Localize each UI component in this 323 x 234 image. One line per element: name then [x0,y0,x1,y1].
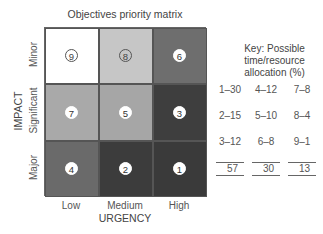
y-axis-label: IMPACT [12,81,24,141]
row-label-major: Major [28,138,39,198]
key-heading-line: allocation (%) [226,67,323,79]
cell-major-high: 1 [153,141,207,197]
cell-significant-low: 7 [45,84,99,141]
cell-significant-high: 3 [153,84,207,141]
cell-major-medium: 2 [99,141,153,197]
key-value: 2–15 [212,110,248,136]
rank-badge: 5 [119,106,132,119]
cell-significant-medium: 5 [99,84,153,141]
col-label-low: Low [44,200,98,211]
key-value: 1–30 [212,84,248,110]
key-total: 30 [252,162,280,176]
rank-badge: 6 [173,49,186,62]
key-total: 13 [288,162,316,176]
key-value: 4–12 [248,84,284,110]
col-label-medium: Medium [98,200,152,211]
row-label-significant: Significant [28,81,39,141]
key-totals-row: 57 30 13 [212,162,320,176]
allocation-key-table: 1–30 4–12 7–8 2–15 5–10 8–4 3–12 6–8 9–1… [212,84,320,176]
key-row: 2–15 5–10 8–4 [212,110,320,136]
x-axis-label: URGENCY [44,212,206,224]
rank-badge: 4 [65,162,78,175]
rank-badge: 3 [173,106,186,119]
key-row: 1–30 4–12 7–8 [212,84,320,110]
key-value: 8–4 [284,110,320,136]
key-value: 3–12 [212,136,248,162]
cell-minor-medium: 8 [99,28,153,84]
key-value: 9–1 [284,136,320,162]
rank-badge: 7 [65,106,78,119]
rank-badge: 8 [119,49,132,62]
key-total: 57 [216,162,244,176]
key-heading-line: Key: Possible [226,43,323,55]
diagram-title: Objectives priority matrix [44,8,206,20]
cell-major-low: 4 [45,141,99,197]
key-heading-line: time/resource [226,55,323,67]
key-row: 3–12 6–8 9–1 [212,136,320,162]
priority-matrix: 9 8 6 7 5 3 4 2 1 [44,27,206,196]
rank-badge: 1 [173,162,186,175]
row-label-minor: Minor [28,25,39,85]
key-value: 5–10 [248,110,284,136]
key-heading: Key: Possible time/resource allocation (… [226,43,323,79]
cell-minor-high: 6 [153,28,207,84]
rank-badge: 9 [65,49,78,62]
cell-minor-low: 9 [45,28,99,84]
key-value: 7–8 [284,84,320,110]
col-label-high: High [152,200,206,211]
key-value: 6–8 [248,136,284,162]
rank-badge: 2 [119,162,132,175]
